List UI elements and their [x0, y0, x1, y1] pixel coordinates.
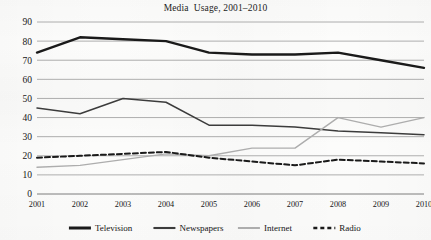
data-series-group: [37, 37, 424, 167]
x-tick-label: 2008: [330, 200, 346, 209]
x-tick-label: 2003: [115, 200, 131, 209]
x-tick-label: 2009: [373, 200, 389, 209]
x-axis-tick-labels: 2001200220032004200520062007200820092010: [29, 200, 431, 209]
legend-label-television: Television: [95, 223, 133, 233]
legend-label-internet: Internet: [264, 223, 292, 233]
x-tick-label: 2007: [287, 200, 303, 209]
y-axis-tick-labels: 9080706050403020100: [23, 17, 33, 199]
legend-label-newspapers: Newspapers: [179, 223, 223, 233]
legend-label-radio: Radio: [339, 223, 361, 233]
y-tick-label: 50: [23, 94, 33, 104]
x-tick-label: 2006: [244, 200, 260, 209]
chart-figure: Media Usage, 2001–2010 90807060504030201…: [0, 0, 431, 240]
y-tick-label: 30: [23, 132, 33, 142]
y-tick-label: 20: [23, 151, 33, 161]
series-line-newspapers: [37, 98, 424, 134]
y-tick-label: 60: [23, 75, 33, 85]
x-tick-label: 2002: [72, 200, 88, 209]
chart-legend: TelevisionNewspapersInternetRadio: [69, 223, 361, 233]
y-tick-label: 10: [23, 170, 33, 180]
y-tick-label: 40: [23, 113, 33, 123]
x-tick-label: 2001: [29, 200, 45, 209]
line-chart-plot: 9080706050403020100 20012002200320042005…: [0, 0, 431, 240]
x-tick-label: 2005: [201, 200, 217, 209]
y-tick-label: 90: [23, 17, 33, 27]
y-tick-label: 0: [27, 189, 32, 199]
x-tick-label: 2010: [416, 200, 431, 209]
y-tick-label: 70: [23, 56, 33, 66]
series-line-television: [37, 37, 424, 68]
x-tick-label: 2004: [158, 200, 174, 209]
y-tick-label: 80: [23, 37, 33, 47]
